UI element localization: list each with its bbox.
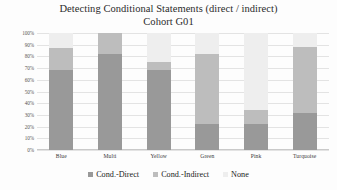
y-axis-tick-label: 10% [6, 135, 34, 141]
bar-slot [37, 33, 86, 150]
x-axis-category-label: Yellow [134, 153, 183, 159]
bar-segment[interactable] [195, 33, 219, 54]
x-axis-category-labels: BlueMultiYellowGreenPinkTurquoise [37, 153, 329, 159]
x-axis-category-label: Turquoise [280, 153, 329, 159]
bar-segment[interactable] [147, 33, 171, 62]
y-axis-tick-label: 30% [6, 112, 34, 118]
bar-segment[interactable] [293, 47, 317, 113]
bar-segment[interactable] [49, 33, 73, 48]
bar-segment[interactable] [147, 62, 171, 70]
legend-item[interactable]: Cond.-Direct [88, 170, 139, 179]
y-axis-tick-label: 60% [6, 77, 34, 83]
bar-segment[interactable] [293, 113, 317, 150]
bar-segment[interactable] [147, 70, 171, 150]
chart-title: Detecting Conditional Statements (direct… [0, 3, 337, 16]
bar-segment[interactable] [195, 54, 219, 124]
y-axis-tick-label: 0% [6, 147, 34, 153]
gridline [37, 150, 329, 151]
bar-slot [232, 33, 281, 150]
bar-stack[interactable] [293, 33, 317, 150]
bar-slot [280, 33, 329, 150]
bar-stack[interactable] [244, 33, 268, 150]
legend-item[interactable]: None [223, 170, 249, 179]
chart-title-block: Detecting Conditional Statements (direct… [0, 3, 337, 28]
x-axis-category-label: Green [183, 153, 232, 159]
bar-slot [86, 33, 135, 150]
legend-label: Cond.-Direct [96, 170, 139, 179]
x-axis-category-label: Pink [232, 153, 281, 159]
bar-segment[interactable] [49, 48, 73, 70]
legend-swatch-icon [223, 172, 228, 177]
bar-segment[interactable] [98, 54, 122, 150]
bar-segment[interactable] [98, 33, 122, 54]
bar-stack[interactable] [147, 33, 171, 150]
legend-swatch-icon [88, 172, 93, 177]
y-axis-tick-label: 90% [6, 42, 34, 48]
y-axis-tick-label: 80% [6, 53, 34, 59]
bar-stack[interactable] [98, 33, 122, 150]
legend-label: None [231, 170, 249, 179]
bar-stack[interactable] [49, 33, 73, 150]
bar-segment[interactable] [293, 33, 317, 47]
bar-slot [183, 33, 232, 150]
bar-segment[interactable] [244, 110, 268, 124]
y-axis-tick-label: 70% [6, 65, 34, 71]
legend-label: Cond.-Indirect [161, 170, 209, 179]
chart-legend: Cond.-DirectCond.-IndirectNone [0, 170, 337, 179]
x-axis-category-label: Multi [86, 153, 135, 159]
legend-swatch-icon [153, 172, 158, 177]
bar-segment[interactable] [195, 124, 219, 150]
bar-segment[interactable] [244, 33, 268, 110]
y-axis-tick-label: 50% [6, 89, 34, 95]
x-axis-category-label: Blue [37, 153, 86, 159]
y-axis-tick-label: 100% [6, 30, 34, 36]
bar-stack[interactable] [195, 33, 219, 150]
y-axis-tick-label: 40% [6, 100, 34, 106]
bars-layer [37, 33, 329, 150]
y-axis-tick-label: 20% [6, 124, 34, 130]
legend-item[interactable]: Cond.-Indirect [153, 170, 209, 179]
bar-segment[interactable] [244, 124, 268, 150]
chart-container: Detecting Conditional Statements (direct… [0, 0, 337, 190]
bar-slot [134, 33, 183, 150]
chart-subtitle: Cohort G01 [0, 16, 337, 29]
bar-segment[interactable] [49, 70, 73, 150]
